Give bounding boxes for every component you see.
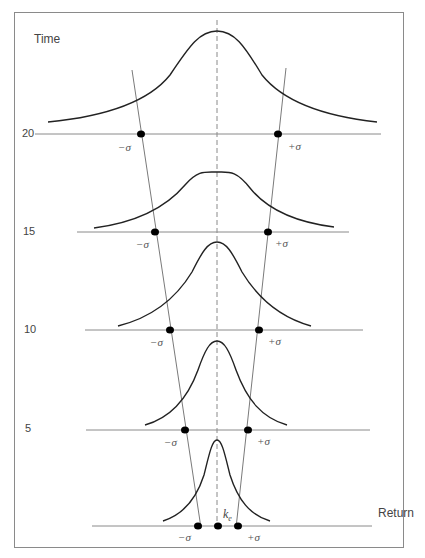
plus-sigma-label-10: +σ <box>268 335 281 347</box>
plus-sigma-dot-time-15 <box>264 229 272 236</box>
expected-return-label: ke <box>223 507 232 523</box>
y-axis-label: Time <box>34 32 60 46</box>
minus-sigma-label-10: −σ <box>150 336 163 348</box>
minus-sigma-label-20: −σ <box>118 141 131 153</box>
minus-sigma-label-5: −σ <box>164 436 177 448</box>
expected-return-subscript: e <box>228 514 232 523</box>
distribution-curve-time-10 <box>118 242 311 326</box>
time-label-5: 5 <box>25 422 31 434</box>
time-label-10: 10 <box>24 323 36 335</box>
plus-sigma-dot-time-0 <box>234 523 242 530</box>
plus-sigma-dot-time-5 <box>244 427 252 434</box>
plus-sigma-label-0: +σ <box>247 531 260 543</box>
time-label-15: 15 <box>23 225 35 237</box>
diagram-figure: Time Return 20 15 10 5 −σ +σ −σ +σ −σ +σ… <box>0 0 425 558</box>
x-axis-label: Return <box>378 506 414 520</box>
minus-sigma-dot-time-15 <box>151 229 159 236</box>
distribution-curve-time-5 <box>145 341 287 425</box>
plus-sigma-label-20: +σ <box>288 140 301 152</box>
distribution-curve-time-15 <box>94 172 334 228</box>
minus-sigma-dot-time-0 <box>194 523 202 530</box>
distribution-curve-time-20 <box>48 31 377 122</box>
time-label-20: 20 <box>22 127 34 139</box>
plus-sigma-label-5: +σ <box>257 435 270 447</box>
minus-sigma-dot-time-10 <box>166 327 174 334</box>
expected-return-dot <box>214 523 222 530</box>
minus-sigma-dot-time-20 <box>137 131 145 138</box>
plus-sigma-label-15: +σ <box>275 237 288 249</box>
minus-sigma-label-15: −σ <box>136 238 149 250</box>
plus-sigma-dot-time-10 <box>255 327 263 334</box>
minus-sigma-boundary-line <box>132 70 201 528</box>
plus-sigma-dot-time-20 <box>274 131 282 138</box>
diagram-svg <box>0 0 425 558</box>
minus-sigma-label-0: −σ <box>178 531 191 543</box>
minus-sigma-dot-time-5 <box>181 427 189 434</box>
